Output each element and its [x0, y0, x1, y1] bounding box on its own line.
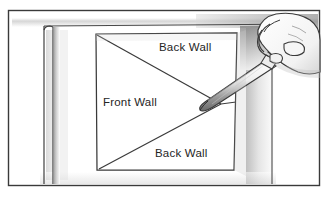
label-front-wall: Front Wall — [103, 96, 157, 108]
thumb — [284, 42, 305, 56]
label-back-wall-bottom: Back Wall — [155, 147, 208, 159]
label-back-wall-top: Back Wall — [159, 41, 212, 53]
illustration-canvas: Back Wall Front Wall Back Wall — [0, 0, 328, 200]
illustration-root: Back Wall Front Wall Back Wall — [0, 0, 328, 200]
